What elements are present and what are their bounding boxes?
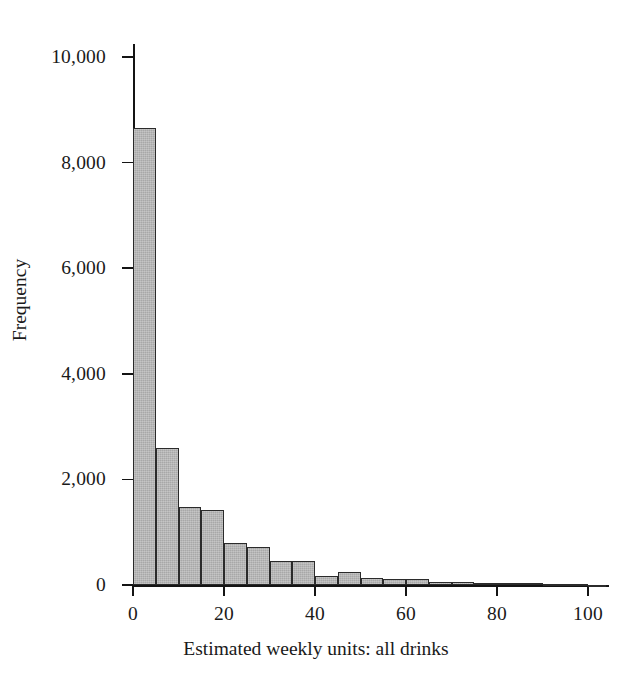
y-axis-tick: [122, 373, 133, 375]
x-axis-tick-label: 40: [280, 604, 350, 624]
x-axis-tick: [132, 585, 134, 596]
y-axis-tick-label: 6,000: [22, 258, 106, 278]
x-axis-tick-label: 20: [189, 604, 259, 624]
plot-area: 02,0004,0006,0008,00010,000 020406080100…: [0, 0, 632, 688]
histogram-bar: [383, 579, 406, 585]
histogram-bar: [133, 128, 156, 585]
x-axis-line: [133, 585, 609, 587]
histogram-bar: [474, 583, 497, 585]
histogram-bar: [406, 579, 429, 585]
x-axis-tick: [314, 585, 316, 596]
x-axis-tick: [496, 585, 498, 596]
x-axis-tick: [223, 585, 225, 596]
x-axis-tick-label: 0: [98, 604, 168, 624]
histogram-bar: [201, 510, 224, 585]
histogram-bar: [361, 578, 384, 585]
histogram-bar: [588, 585, 606, 587]
x-axis-tick: [405, 585, 407, 596]
y-axis-tick-label: 8,000: [22, 153, 106, 173]
y-axis-tick-label: 0: [22, 575, 106, 595]
y-axis-tick: [122, 162, 133, 164]
histogram-bar: [179, 507, 202, 585]
y-axis-title: Frequency: [10, 220, 30, 380]
y-axis-tick-label: 2,000: [22, 469, 106, 489]
x-axis-tick-label: 100: [553, 604, 623, 624]
histogram-bar: [292, 561, 315, 585]
y-axis-tick-label: 10,000: [22, 47, 106, 67]
histogram-bar: [452, 582, 475, 585]
x-axis-title: Estimated weekly units: all drinks: [0, 638, 632, 660]
histogram-bar: [520, 583, 543, 585]
x-axis-tick-label: 80: [462, 604, 532, 624]
histogram-bar: [338, 572, 361, 585]
histogram-bar: [565, 584, 588, 586]
y-axis-tick-label: 4,000: [22, 364, 106, 384]
histogram-bar: [497, 583, 520, 585]
y-axis-tick: [122, 56, 133, 58]
histogram-bar: [543, 584, 566, 586]
histogram-bar: [270, 561, 293, 585]
y-axis-tick: [122, 267, 133, 269]
histogram-bar: [156, 448, 179, 585]
y-axis-tick: [122, 479, 133, 481]
histogram-bar: [315, 576, 338, 585]
x-axis-tick-label: 60: [371, 604, 441, 624]
histogram-bar: [224, 543, 247, 585]
histogram-figure: 02,0004,0006,0008,00010,000 020406080100…: [0, 0, 632, 688]
histogram-bar: [247, 547, 270, 585]
histogram-bar: [429, 582, 452, 585]
x-axis-tick: [587, 585, 589, 596]
